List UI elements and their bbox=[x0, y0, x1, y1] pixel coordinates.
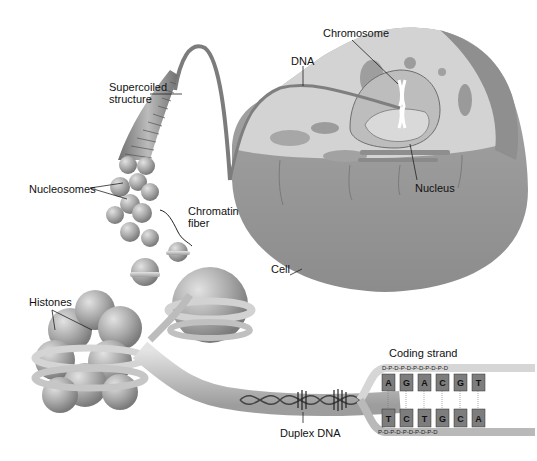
base-4: C bbox=[439, 378, 446, 388]
base-1: T bbox=[386, 414, 392, 424]
label-chromatin-line1: Chromatin bbox=[188, 205, 239, 217]
base-1: A bbox=[385, 378, 392, 388]
histone-core bbox=[35, 290, 145, 413]
template-backbone-label: P-D-P-D-P-D-P-D-P-D bbox=[378, 429, 438, 435]
base-2: C bbox=[403, 414, 410, 424]
base-6: T bbox=[476, 378, 482, 388]
label-supercoiled-structure: Supercoiled structure bbox=[109, 81, 167, 105]
base-5: G bbox=[457, 378, 464, 388]
nucleosomes bbox=[106, 156, 190, 286]
label-coding-strand: Coding strand bbox=[389, 347, 458, 359]
label-histones: Histones bbox=[29, 296, 72, 308]
label-cell: Cell bbox=[271, 263, 290, 275]
base-pair-bonds bbox=[388, 391, 478, 409]
label-nucleosomes: Nucleosomes bbox=[29, 183, 96, 195]
diagram-artwork: D-P-D-P-D-P-D-P-D-P-D P-D-P-D-P-D-P-D-P-… bbox=[0, 0, 537, 461]
label-nucleus: Nucleus bbox=[415, 182, 455, 194]
base-5: C bbox=[457, 414, 464, 424]
label-duplex-dna: Duplex DNA bbox=[280, 427, 341, 439]
coding-backbone-label: D-P-D-P-D-P-D-P-D-P-D bbox=[382, 365, 449, 371]
chromosome-glyph bbox=[399, 80, 405, 128]
label-supercoiled-line1: Supercoiled bbox=[109, 81, 167, 93]
label-chromatin-fiber: Chromatin fiber bbox=[188, 205, 239, 229]
label-chromosome: Chromosome bbox=[323, 27, 389, 39]
base-6: A bbox=[475, 414, 482, 424]
coding-strand-bases: A G A C G T bbox=[382, 374, 485, 391]
label-supercoiled-line2: structure bbox=[109, 93, 167, 105]
label-dna: DNA bbox=[291, 55, 314, 67]
base-3: T bbox=[422, 414, 428, 424]
base-2: G bbox=[403, 378, 410, 388]
base-4: G bbox=[439, 414, 446, 424]
chromosome-packaging-diagram: D-P-D-P-D-P-D-P-D-P-D P-D-P-D-P-D-P-D-P-… bbox=[0, 0, 537, 461]
base-3: A bbox=[421, 378, 428, 388]
label-chromatin-line2: fiber bbox=[188, 217, 239, 229]
